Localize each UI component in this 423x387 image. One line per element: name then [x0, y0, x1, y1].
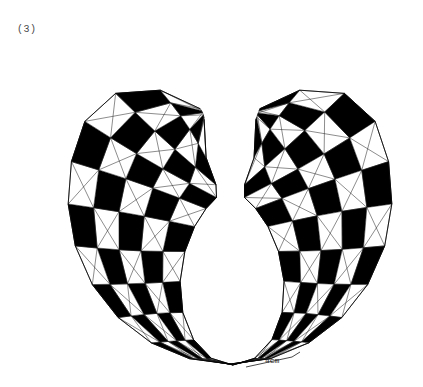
geometric-figure-canvas [0, 0, 423, 387]
figure-page: (3) 4cm [0, 0, 423, 387]
mesh-cell [342, 207, 367, 249]
dimension-label: 4cm [265, 356, 279, 365]
mesh-cell [119, 212, 144, 251]
panel-label: (3) [17, 24, 37, 35]
